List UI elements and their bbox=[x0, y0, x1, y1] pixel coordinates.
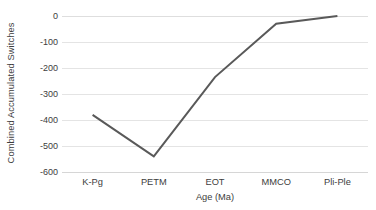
x-axis-tick-label: K-Pg bbox=[58, 176, 128, 189]
x-axis-tick-labels: K-PgPETMEOTMMCOPli-Ple bbox=[62, 176, 368, 190]
y-axis-tick-label: -100 bbox=[18, 37, 58, 47]
y-axis-tick-labels: 0-100-200-300-400-500-600 bbox=[18, 16, 58, 172]
series-line-combined-accumulated-switches bbox=[62, 16, 368, 172]
y-axis-tick-label: -600 bbox=[18, 167, 58, 177]
x-axis-tick-label: Pli-Ple bbox=[302, 176, 372, 189]
series-polyline bbox=[93, 16, 338, 156]
y-axis-tick-label: -500 bbox=[18, 141, 58, 151]
gridline bbox=[62, 172, 368, 173]
y-axis-tick-label: -400 bbox=[18, 115, 58, 125]
x-axis-tick-label: PETM bbox=[119, 176, 189, 189]
y-axis-tick-label: -200 bbox=[18, 63, 58, 73]
x-axis-tick-label: MMCO bbox=[241, 176, 311, 189]
y-axis-tick-label: 0 bbox=[18, 11, 58, 21]
plot-area bbox=[62, 16, 368, 172]
x-axis-title: Age (Ma) bbox=[62, 191, 368, 204]
y-axis-title: Combined Accumulated Switches bbox=[4, 5, 18, 181]
x-axis-tick-label: EOT bbox=[180, 176, 250, 189]
y-axis-tick-label: -300 bbox=[18, 89, 58, 99]
line-chart: Combined Accumulated Switches 0-100-200-… bbox=[0, 0, 376, 210]
